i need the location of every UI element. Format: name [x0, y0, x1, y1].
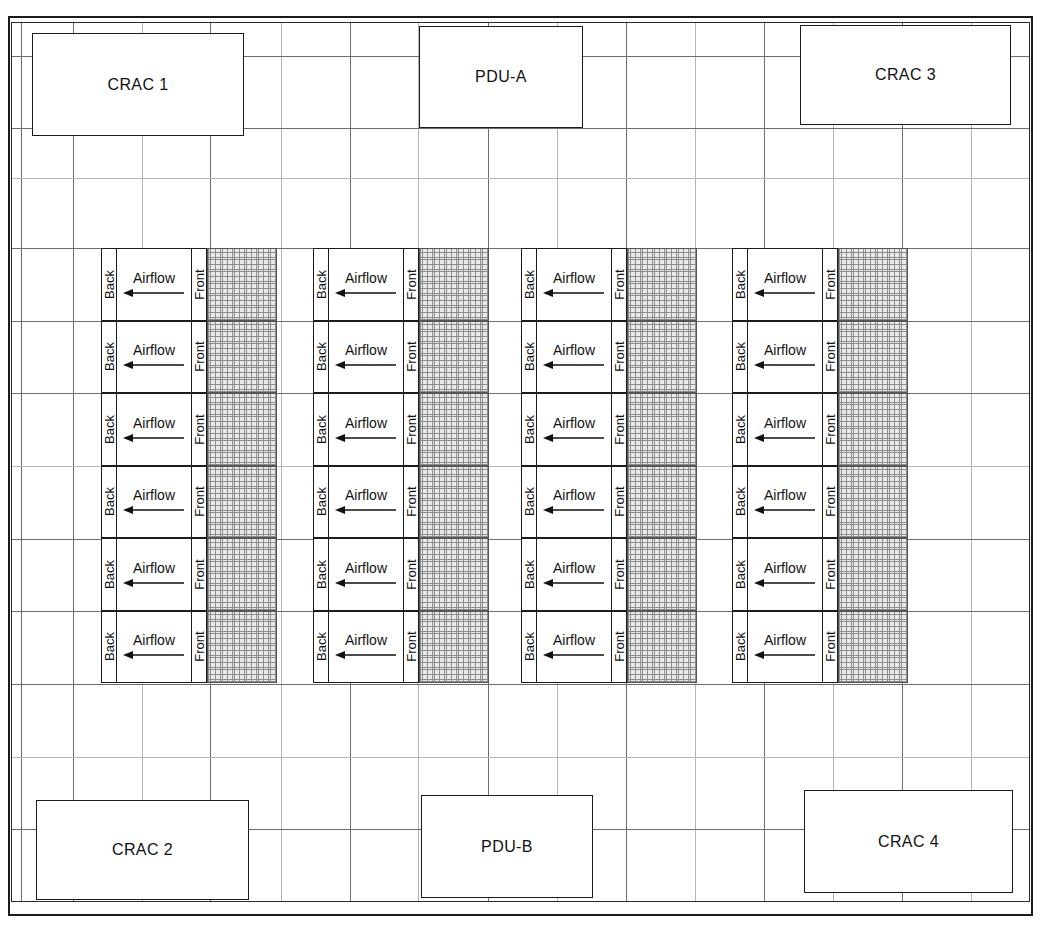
- server-rack-c2-r6[interactable]: BackAirflowFront: [313, 611, 419, 684]
- server-rack-c1-r6[interactable]: BackAirflowFront: [101, 611, 207, 684]
- rack-back-zone: Back: [102, 612, 117, 683]
- rack-front-label: Front: [405, 269, 418, 299]
- rack-front-label: Front: [613, 269, 626, 299]
- rack-back-zone: Back: [522, 249, 537, 320]
- perforated-tile-c3-r6: [627, 611, 697, 684]
- server-rack-c3-r6[interactable]: BackAirflowFront: [521, 611, 627, 684]
- airflow-arrow-left-icon: [543, 433, 605, 443]
- server-rack-c2-r3[interactable]: BackAirflowFront: [313, 393, 419, 466]
- rack-back-label: Back: [103, 270, 116, 299]
- crac-unit-2[interactable]: CRAC 2: [36, 800, 249, 900]
- rack-airflow-zone: Airflow: [329, 467, 403, 538]
- rack-front-label: Front: [405, 342, 418, 372]
- server-rack-c1-r1[interactable]: BackAirflowFront: [101, 248, 207, 321]
- pdu-unit-A[interactable]: PDU-A: [419, 26, 583, 128]
- airflow-arrow-left-icon: [543, 505, 605, 515]
- server-rack-c1-r4[interactable]: BackAirflowFront: [101, 466, 207, 539]
- airflow-arrow-left-icon: [754, 360, 816, 370]
- rack-airflow-zone: Airflow: [748, 322, 822, 393]
- rack-airflow-zone: Airflow: [537, 539, 611, 610]
- airflow-arrow-left-icon: [335, 578, 397, 588]
- airflow-label: Airflow: [553, 488, 595, 502]
- airflow-arrow-left-icon: [543, 360, 605, 370]
- rack-back-label: Back: [103, 560, 116, 589]
- airflow-arrow-left-icon: [335, 650, 397, 660]
- rack-back-label: Back: [523, 342, 536, 371]
- airflow-label: Airflow: [553, 633, 595, 647]
- rack-airflow-zone: Airflow: [117, 612, 191, 683]
- rack-airflow-zone: Airflow: [748, 539, 822, 610]
- server-rack-c3-r2[interactable]: BackAirflowFront: [521, 321, 627, 394]
- airflow-arrow-left-icon: [543, 288, 605, 298]
- perforated-tile-c3-r3: [627, 393, 697, 466]
- server-rack-c4-r4[interactable]: BackAirflowFront: [732, 466, 838, 539]
- rack-airflow-zone: Airflow: [329, 539, 403, 610]
- perforated-tile-c2-r4: [419, 466, 489, 539]
- rack-front-zone: Front: [403, 612, 418, 683]
- airflow-label: Airflow: [764, 343, 806, 357]
- rack-back-label: Back: [315, 560, 328, 589]
- airflow-arrow-left-icon: [123, 505, 185, 515]
- server-rack-c2-r4[interactable]: BackAirflowFront: [313, 466, 419, 539]
- rack-back-label: Back: [734, 487, 747, 516]
- rack-front-label: Front: [193, 269, 206, 299]
- airflow-arrow-left-icon: [123, 360, 185, 370]
- airflow-label: Airflow: [133, 633, 175, 647]
- server-rack-c3-r3[interactable]: BackAirflowFront: [521, 393, 627, 466]
- perforated-tile-c1-r1: [207, 248, 277, 321]
- rack-front-label: Front: [193, 487, 206, 517]
- rack-back-label: Back: [734, 632, 747, 661]
- server-rack-c3-r4[interactable]: BackAirflowFront: [521, 466, 627, 539]
- perforated-tile-c3-r5: [627, 538, 697, 611]
- equipment-label: CRAC 1: [107, 76, 168, 94]
- rack-front-label: Front: [405, 632, 418, 662]
- rack-back-zone: Back: [314, 394, 329, 465]
- server-rack-c4-r3[interactable]: BackAirflowFront: [732, 393, 838, 466]
- rack-airflow-zone: Airflow: [537, 467, 611, 538]
- rack-front-zone: Front: [191, 322, 206, 393]
- rack-back-label: Back: [734, 560, 747, 589]
- server-rack-c3-r1[interactable]: BackAirflowFront: [521, 248, 627, 321]
- rack-back-label: Back: [734, 415, 747, 444]
- airflow-label: Airflow: [764, 561, 806, 575]
- server-rack-c2-r5[interactable]: BackAirflowFront: [313, 538, 419, 611]
- server-rack-c4-r2[interactable]: BackAirflowFront: [732, 321, 838, 394]
- rack-airflow-zone: Airflow: [117, 394, 191, 465]
- crac-unit-3[interactable]: CRAC 3: [800, 25, 1011, 125]
- rack-front-label: Front: [613, 414, 626, 444]
- server-rack-c2-r1[interactable]: BackAirflowFront: [313, 248, 419, 321]
- rack-back-label: Back: [103, 342, 116, 371]
- airflow-arrow-left-icon: [335, 505, 397, 515]
- server-rack-c3-r5[interactable]: BackAirflowFront: [521, 538, 627, 611]
- server-rack-c1-r3[interactable]: BackAirflowFront: [101, 393, 207, 466]
- rack-back-zone: Back: [314, 322, 329, 393]
- rack-front-zone: Front: [822, 467, 837, 538]
- rack-back-label: Back: [315, 342, 328, 371]
- rack-back-label: Back: [103, 632, 116, 661]
- server-rack-c2-r2[interactable]: BackAirflowFront: [313, 321, 419, 394]
- rack-front-label: Front: [824, 269, 837, 299]
- equipment-label: CRAC 3: [875, 66, 936, 84]
- airflow-label: Airflow: [133, 488, 175, 502]
- server-rack-c1-r2[interactable]: BackAirflowFront: [101, 321, 207, 394]
- server-rack-c4-r1[interactable]: BackAirflowFront: [732, 248, 838, 321]
- pdu-unit-B[interactable]: PDU-B: [421, 795, 593, 898]
- airflow-label: Airflow: [764, 271, 806, 285]
- perforated-tile-c2-r1: [419, 248, 489, 321]
- rack-front-zone: Front: [822, 249, 837, 320]
- airflow-arrow-left-icon: [543, 578, 605, 588]
- rack-back-label: Back: [523, 415, 536, 444]
- crac-unit-1[interactable]: CRAC 1: [32, 33, 244, 136]
- rack-back-zone: Back: [733, 467, 748, 538]
- perforated-tile-c4-r4: [838, 466, 908, 539]
- rack-back-zone: Back: [102, 322, 117, 393]
- server-rack-c4-r5[interactable]: BackAirflowFront: [732, 538, 838, 611]
- server-rack-c4-r6[interactable]: BackAirflowFront: [732, 611, 838, 684]
- rack-airflow-zone: Airflow: [537, 322, 611, 393]
- crac-unit-4[interactable]: CRAC 4: [804, 790, 1013, 893]
- airflow-arrow-left-icon: [123, 288, 185, 298]
- server-rack-c1-r5[interactable]: BackAirflowFront: [101, 538, 207, 611]
- airflow-label: Airflow: [133, 343, 175, 357]
- rack-back-zone: Back: [522, 467, 537, 538]
- perforated-tile-c4-r2: [838, 321, 908, 394]
